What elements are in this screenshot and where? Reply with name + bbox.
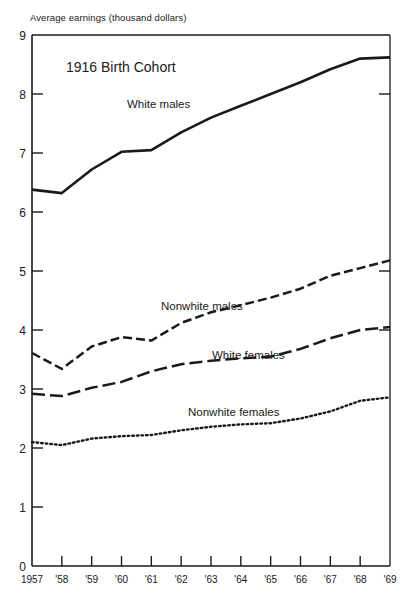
y-tick-label: 8 xyxy=(19,88,26,102)
series-label-white-males: White males xyxy=(127,98,191,110)
y-tick-label: 1 xyxy=(19,501,26,515)
x-tick-label: '67 xyxy=(324,574,337,585)
x-tick-label: '65 xyxy=(264,574,277,585)
x-tick-label: '63 xyxy=(204,574,217,585)
y-tick-label: 4 xyxy=(19,324,26,338)
y-tick-label: 5 xyxy=(19,265,26,279)
axis-title-label: Average earnings (thousand dollars) xyxy=(30,12,186,23)
series-line-white-females xyxy=(32,327,390,396)
x-tick-label: '66 xyxy=(294,574,307,585)
x-tick-label: '64 xyxy=(234,574,247,585)
y-tick-label: 9 xyxy=(19,29,26,43)
y-tick-label: 2 xyxy=(19,442,26,456)
x-tick-label: '59 xyxy=(85,574,98,585)
series-label-white-females: White females xyxy=(212,349,285,361)
x-tick-label: '58 xyxy=(55,574,68,585)
x-tick-label: '68 xyxy=(354,574,367,585)
x-tick-label: '60 xyxy=(115,574,128,585)
x-tick-group: 1957'58'59'60'61'62'63'64'65'66'67'68'69 xyxy=(21,556,397,585)
series-line-white-males xyxy=(32,57,390,193)
y-tick-label: 0 xyxy=(19,560,26,574)
series-label-nonwhite-males: Nonwhite males xyxy=(161,300,243,312)
y-tick-label: 3 xyxy=(19,383,26,397)
series-line-nonwhite-females xyxy=(32,397,390,445)
earnings-line-chart: 0123456789 1957'58'59'60'61'62'63'64'65'… xyxy=(0,0,420,608)
series-line-nonwhite-males xyxy=(32,260,390,369)
series-label-nonwhite-females: Nonwhite females xyxy=(188,406,280,418)
x-tick-label: '69 xyxy=(383,574,396,585)
x-tick-label: '62 xyxy=(175,574,188,585)
x-tick-label: '61 xyxy=(145,574,158,585)
series-group xyxy=(32,57,390,445)
y-tick-label: 6 xyxy=(19,206,26,220)
cohort-annotation: 1916 Birth Cohort xyxy=(66,59,176,75)
x-tick-label: 1957 xyxy=(21,574,44,585)
y-tick-label: 7 xyxy=(19,147,26,161)
chart-container: Average earnings (thousand dollars) 0123… xyxy=(0,0,420,608)
